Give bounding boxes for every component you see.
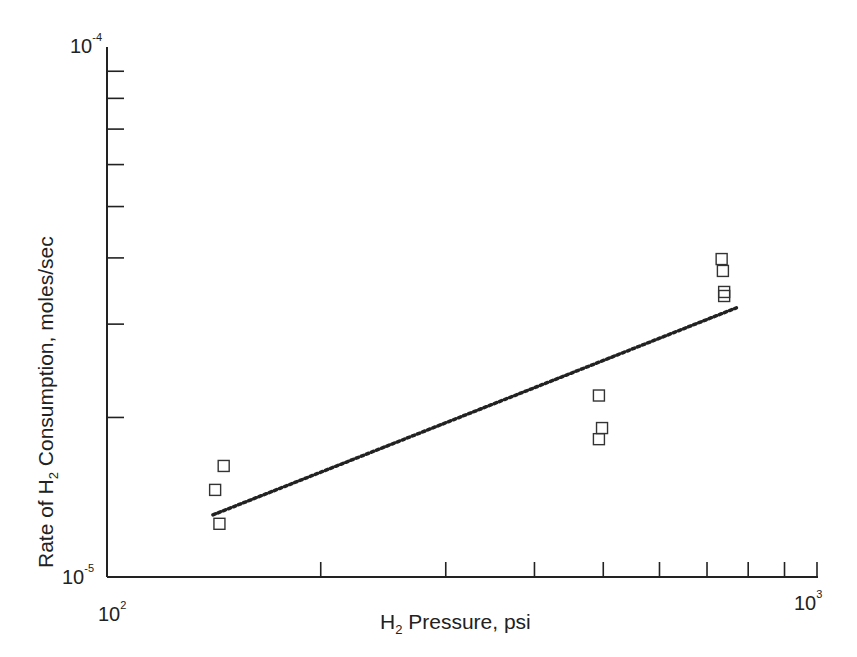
plot-area (0, 0, 857, 657)
square-marker (210, 484, 221, 495)
square-marker (593, 434, 604, 445)
square-marker (597, 423, 608, 434)
square-marker (717, 265, 728, 276)
x-axis-title: H2 Pressure, psi (380, 610, 531, 637)
square-marker (719, 286, 730, 297)
fit-line (213, 308, 736, 515)
y-ticks (107, 71, 124, 417)
y-min-label: 10-5 (62, 566, 94, 589)
x-ticks (321, 562, 817, 577)
y-axis-title: Rate of H2 Consumption, moles/sec (34, 236, 61, 568)
square-marker (218, 460, 229, 471)
square-marker (214, 518, 225, 529)
y-max-label: 10-4 (70, 35, 102, 58)
data-points (210, 254, 730, 530)
x-max-label: 103 (794, 592, 822, 615)
square-marker (716, 254, 727, 265)
square-marker (719, 290, 730, 301)
square-marker (593, 390, 604, 401)
x-min-label: 102 (98, 603, 126, 626)
fit-line-path (213, 308, 736, 515)
